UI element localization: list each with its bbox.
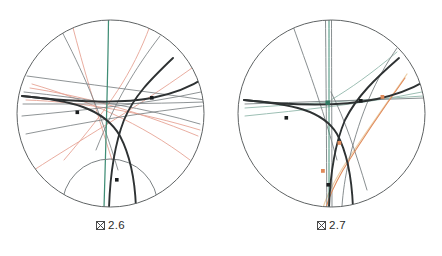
teal-geodesic: [104, 20, 109, 208]
thin-gray-geodesic: [60, 28, 118, 170]
marked-point: [285, 116, 289, 120]
thin-gray-geodesic: [326, 19, 327, 208]
figure-panel-2-7: 2.7: [221, 0, 442, 256]
caption-tofu-icon: [96, 221, 105, 230]
marked-point: [327, 183, 331, 187]
figure-caption-2-7: 2.7: [221, 218, 442, 232]
figure-caption-2-6: 2.6: [0, 218, 221, 232]
figure-panel-2-6: 2.6: [0, 0, 221, 256]
marked-point-orange: [338, 141, 342, 145]
marked-point-teal: [326, 101, 330, 105]
figure-sheet: 2.6: [0, 0, 442, 256]
caption-number: 2.6: [108, 218, 125, 232]
marked-point-orange: [381, 95, 385, 99]
marked-point: [76, 111, 80, 115]
thick-geodesic: [244, 100, 353, 208]
poincare-disk-figure-2-7: [221, 0, 442, 214]
caption-number: 2.7: [329, 218, 346, 232]
teal-geodesic-group: [104, 20, 109, 208]
thin-gray-geodesic: [24, 92, 200, 124]
caption-tofu-icon: [317, 221, 326, 230]
thick-geodesic-group: [22, 58, 204, 208]
marked-point: [359, 99, 363, 103]
marked-point-teal-group: [326, 101, 330, 105]
marked-point: [150, 96, 154, 100]
marked-point: [115, 178, 119, 182]
thin-gray-geodesic: [293, 26, 337, 160]
marked-point-dark-group: [285, 99, 363, 187]
thick-geodesic: [329, 58, 399, 208]
poincare-disk-figure-2-6: [0, 0, 221, 214]
marked-point-orange: [321, 169, 325, 173]
